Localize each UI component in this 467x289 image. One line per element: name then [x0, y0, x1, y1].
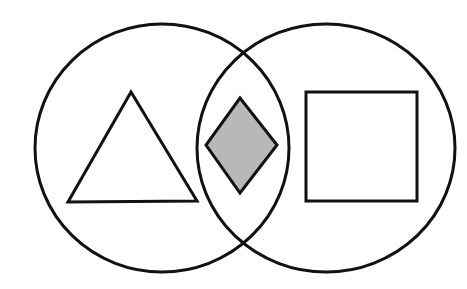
venn-diagram-svg: [0, 0, 467, 289]
venn-diagram: [0, 0, 467, 289]
diamond-shape: [206, 98, 277, 193]
square-shape: [306, 92, 417, 201]
triangle-shape: [68, 92, 197, 202]
